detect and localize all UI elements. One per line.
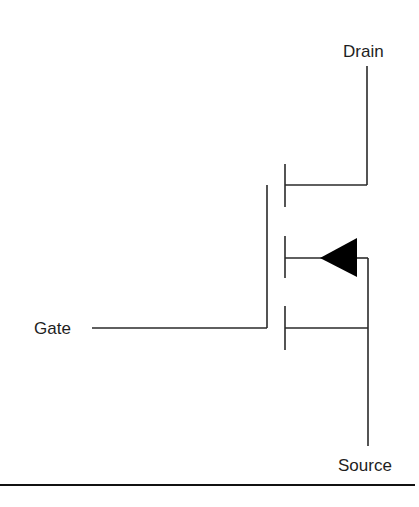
drain-label: Drain [343, 42, 384, 61]
body-arrow-icon [320, 238, 357, 277]
mosfet-diagram: Drain Gate Source [0, 0, 419, 507]
gate-label: Gate [34, 319, 71, 338]
source-label: Source [338, 456, 392, 475]
